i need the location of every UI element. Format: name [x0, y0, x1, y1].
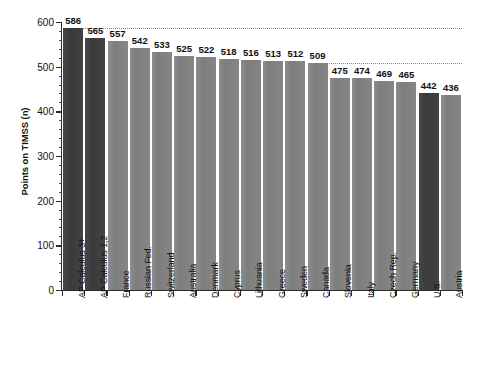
bar	[419, 93, 439, 290]
bar	[396, 82, 416, 290]
y-tick-label: 100	[20, 240, 54, 251]
bar	[352, 78, 372, 290]
plot-area: 5865655575425335255225185165135125094754…	[62, 22, 462, 290]
bar	[219, 59, 239, 290]
bar-value-label: 509	[304, 50, 330, 61]
y-minor-tick	[59, 76, 63, 77]
x-category-label: France	[121, 271, 131, 298]
reference-line	[319, 63, 462, 64]
x-category-label: AP Calculus 1,2	[99, 236, 109, 298]
x-category-label: Lithuania	[254, 262, 264, 298]
bar	[196, 57, 216, 290]
y-minor-tick	[59, 227, 63, 228]
y-major-tick	[56, 156, 62, 157]
y-minor-tick	[59, 40, 63, 41]
y-major-tick	[56, 201, 62, 202]
y-major-tick	[56, 245, 62, 246]
y-major-tick	[56, 67, 62, 68]
x-category-label: Germany	[410, 262, 420, 298]
y-minor-tick	[59, 236, 63, 237]
x-category-label: Sweden	[299, 266, 309, 298]
x-category-label: U.S.	[432, 281, 442, 298]
bar	[241, 60, 261, 290]
x-category-label: Canada	[321, 267, 331, 298]
y-minor-tick	[59, 183, 63, 184]
x-category-label: Russian Fed.	[143, 246, 153, 298]
x-tick	[62, 290, 63, 296]
y-minor-tick	[59, 49, 63, 50]
y-minor-tick	[59, 165, 63, 166]
bar	[108, 41, 128, 290]
y-minor-tick	[59, 58, 63, 59]
x-category-label: Italy	[366, 282, 376, 298]
y-minor-tick	[59, 281, 63, 282]
bar	[174, 56, 194, 291]
y-minor-tick	[59, 138, 63, 139]
x-category-label: Austria	[454, 271, 464, 298]
x-category-label: Denmark	[210, 262, 220, 298]
y-tick-label: 200	[20, 195, 54, 206]
x-category-label: AP Calculus 3+	[77, 238, 87, 298]
x-category-label: Greece	[277, 269, 287, 298]
y-minor-tick	[59, 210, 63, 211]
bar	[330, 78, 350, 290]
y-minor-tick	[59, 219, 63, 220]
y-minor-tick	[59, 129, 63, 130]
y-tick-label: 0	[20, 285, 54, 296]
y-minor-tick	[59, 272, 63, 273]
y-minor-tick	[59, 192, 63, 193]
bar	[308, 63, 328, 290]
y-minor-tick	[59, 174, 63, 175]
bar-chart: Points on TIMSS (n) 0100200300400500600 …	[0, 0, 487, 375]
y-tick-label: 500	[20, 61, 54, 72]
y-minor-tick	[59, 263, 63, 264]
y-minor-tick	[59, 93, 63, 94]
y-minor-tick	[59, 120, 63, 121]
y-tick-label: 400	[20, 106, 54, 117]
x-category-label: Switzerland	[166, 253, 176, 298]
bar-value-label: 436	[438, 82, 464, 93]
y-major-tick	[56, 111, 62, 112]
y-minor-tick	[59, 85, 63, 86]
x-category-label: Australia	[188, 264, 198, 298]
x-category-label: Cyprus	[232, 270, 242, 298]
x-category-label: Slovenia	[343, 264, 353, 298]
y-tick-label: 300	[20, 151, 54, 162]
y-minor-tick	[59, 31, 63, 32]
y-minor-tick	[59, 147, 63, 148]
y-tick-label: 600	[20, 17, 54, 28]
bar	[441, 95, 461, 290]
y-axis-tick-labels: 0100200300400500600	[20, 0, 54, 375]
y-minor-tick	[59, 254, 63, 255]
x-category-label: Czech Rep.	[388, 252, 398, 298]
bar	[263, 61, 283, 290]
y-minor-tick	[59, 102, 63, 103]
bar	[285, 61, 305, 290]
